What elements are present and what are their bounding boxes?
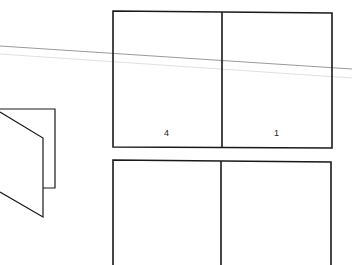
folded-leaflet-icon bbox=[0, 109, 55, 217]
page-number-label: 1 bbox=[274, 128, 279, 138]
page-number-label: 4 bbox=[164, 128, 169, 138]
top-sheet bbox=[113, 11, 332, 148]
bottom-sheet bbox=[113, 160, 331, 265]
diagram-canvas bbox=[0, 0, 352, 265]
